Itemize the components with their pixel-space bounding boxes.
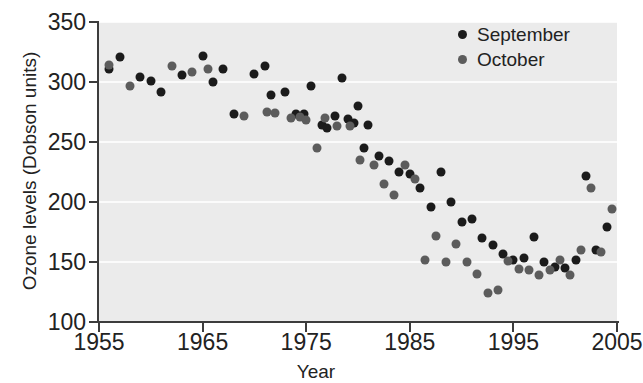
data-point-september xyxy=(519,254,528,263)
data-point-september xyxy=(467,214,476,223)
data-point-september xyxy=(354,102,363,111)
data-point-september xyxy=(219,64,228,73)
data-point-september xyxy=(281,87,290,96)
data-point-october xyxy=(286,114,295,123)
y-axis-tick xyxy=(89,21,98,23)
data-point-october xyxy=(369,160,378,169)
data-point-september xyxy=(364,121,373,130)
data-point-september xyxy=(322,123,331,132)
data-point-september xyxy=(385,157,394,166)
data-point-october xyxy=(240,111,249,120)
data-point-september xyxy=(177,70,186,79)
y-axis-tick xyxy=(89,321,98,323)
data-point-september xyxy=(416,183,425,192)
data-point-october xyxy=(188,68,197,77)
data-point-october xyxy=(587,183,596,192)
y-axis-title: Ozone levels (Dobson units) xyxy=(19,21,41,321)
data-point-september xyxy=(488,241,497,250)
data-point-october xyxy=(302,116,311,125)
data-point-october xyxy=(504,256,513,265)
data-point-october xyxy=(167,62,176,71)
data-point-september xyxy=(360,144,369,153)
data-point-october xyxy=(473,270,482,279)
y-axis-tick xyxy=(89,81,98,83)
y-axis-line xyxy=(97,21,99,323)
data-point-october xyxy=(333,122,342,131)
data-point-september xyxy=(266,91,275,100)
data-point-october xyxy=(356,156,365,165)
data-point-september xyxy=(530,232,539,241)
data-point-september xyxy=(198,51,207,60)
data-point-september xyxy=(571,255,580,264)
data-point-october xyxy=(390,190,399,199)
legend-label-october: October xyxy=(477,50,545,69)
gridline xyxy=(99,141,617,143)
data-point-september xyxy=(436,168,445,177)
data-point-september xyxy=(447,198,456,207)
legend-item-october: October xyxy=(458,47,608,72)
data-point-october xyxy=(312,144,321,153)
data-point-october xyxy=(545,266,554,275)
data-point-september xyxy=(338,74,347,83)
data-point-september xyxy=(229,110,238,119)
data-point-september xyxy=(478,234,487,243)
data-point-october xyxy=(203,64,212,73)
x-axis-tick-label: 1985 xyxy=(384,331,435,354)
data-point-october xyxy=(345,122,354,131)
x-axis-tick-label: 1975 xyxy=(281,331,332,354)
legend-label-september: September xyxy=(477,25,570,44)
data-point-september xyxy=(457,218,466,227)
data-point-october xyxy=(566,271,575,280)
data-point-october xyxy=(105,61,114,70)
data-point-september xyxy=(602,223,611,232)
x-axis-tick-label: 1965 xyxy=(177,331,228,354)
data-point-september xyxy=(157,87,166,96)
data-point-september xyxy=(260,62,269,71)
data-point-october xyxy=(607,205,616,214)
data-point-october xyxy=(431,231,440,240)
data-point-september xyxy=(374,152,383,161)
data-point-october xyxy=(483,289,492,298)
data-point-september xyxy=(331,111,340,120)
data-point-october xyxy=(410,175,419,184)
data-point-september xyxy=(146,76,155,85)
data-point-september xyxy=(307,81,316,90)
x-axis-tick-label: 1995 xyxy=(488,331,539,354)
y-axis-tick xyxy=(89,201,98,203)
data-point-september xyxy=(426,202,435,211)
data-point-october xyxy=(462,258,471,267)
data-point-september xyxy=(581,171,590,180)
data-point-october xyxy=(421,255,430,264)
x-axis-title: Year xyxy=(0,361,632,383)
data-point-september xyxy=(250,69,259,78)
gridline xyxy=(99,201,617,203)
y-axis-tick xyxy=(89,261,98,263)
x-axis-line xyxy=(97,321,619,323)
data-point-september xyxy=(115,52,124,61)
legend: September October xyxy=(458,22,608,72)
data-point-october xyxy=(271,109,280,118)
data-point-october xyxy=(379,180,388,189)
data-point-october xyxy=(493,285,502,294)
data-point-october xyxy=(576,246,585,255)
data-point-october xyxy=(320,114,329,123)
x-axis-tick-label: 1955 xyxy=(73,331,124,354)
data-point-october xyxy=(442,258,451,267)
legend-marker-october-icon xyxy=(458,55,467,64)
y-axis-tick xyxy=(89,141,98,143)
x-axis-tick-label: 2005 xyxy=(591,331,642,354)
data-point-september xyxy=(136,73,145,82)
data-point-october xyxy=(514,265,523,274)
data-point-october xyxy=(400,160,409,169)
data-point-october xyxy=(597,248,606,257)
data-point-october xyxy=(126,81,135,90)
data-point-september xyxy=(208,78,217,87)
data-point-october xyxy=(524,266,533,275)
gridline xyxy=(99,81,617,83)
data-point-october xyxy=(556,255,565,264)
data-point-october xyxy=(452,240,461,249)
legend-item-september: September xyxy=(458,22,608,47)
legend-marker-september-icon xyxy=(458,30,467,39)
data-point-october xyxy=(535,271,544,280)
